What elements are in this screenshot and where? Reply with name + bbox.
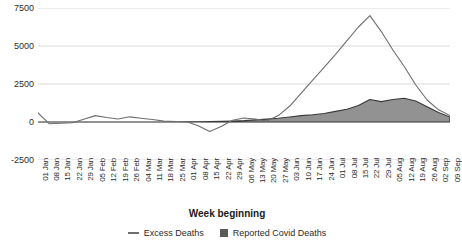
x-tick-label: 13 May	[259, 158, 267, 183]
x-axis-title: Week beginning	[0, 208, 454, 219]
legend-item-reported-covid-deaths: Reported Covid Deaths	[220, 228, 327, 238]
x-tick-label: 29 Apr	[236, 158, 244, 180]
line-swatch-icon	[128, 232, 139, 234]
x-tick-label: 20 May	[270, 158, 278, 183]
x-tick-label: 15 Jan	[64, 158, 72, 181]
x-tick-label: 05 Aug	[396, 158, 404, 182]
x-tick-label: 08 Jan	[53, 158, 61, 181]
x-tick-label: 25 Mar	[179, 158, 187, 182]
x-tick-label: 17 Jun	[316, 158, 324, 181]
x-tick-label: 19 Feb	[122, 158, 130, 182]
x-tick-label: 15 Jul	[362, 158, 370, 178]
x-tick-label: 24 Jun	[328, 158, 336, 181]
x-tick-label: 04 Mar	[145, 158, 153, 182]
x-tick-label: 26 Feb	[133, 158, 141, 182]
x-tick-label: 22 Jul	[373, 158, 381, 178]
x-tick-label: 10 Jun	[305, 158, 313, 181]
x-tick-label: 29 Jul	[385, 158, 393, 178]
x-tick-label: 22 Jan	[76, 158, 84, 181]
chart-svg	[38, 8, 450, 160]
x-tick-label: 01 Jan	[42, 158, 50, 181]
legend-label-excess-deaths: Excess Deaths	[144, 228, 204, 238]
x-tick-label: 27 May	[282, 158, 290, 183]
plot-area	[38, 8, 450, 160]
x-tick-label: 01 Jul	[339, 158, 347, 178]
x-tick-label: 06 May	[248, 158, 256, 183]
x-tick-label: 03 Jun	[293, 158, 301, 181]
x-tick-label: 29 Jan	[87, 158, 95, 181]
x-tick-label: 02 Sep	[442, 158, 450, 182]
legend-item-excess-deaths: Excess Deaths	[128, 228, 204, 238]
y-tick-label: 5000	[14, 42, 34, 51]
chart-legend: Excess Deaths Reported Covid Deaths	[0, 228, 454, 238]
x-tick-label: 08 Apr	[202, 158, 210, 180]
x-tick-label: 12 Feb	[110, 158, 118, 182]
x-axis: 01 Jan08 Jan15 Jan22 Jan29 Jan05 Feb12 F…	[38, 158, 450, 206]
y-tick-label: 0	[29, 118, 34, 127]
y-tick-label: 7500	[14, 4, 34, 13]
x-tick-label: 01 Apr	[190, 158, 198, 180]
x-tick-label: 26 Aug	[431, 158, 439, 182]
x-tick-label: 15 Apr	[213, 158, 221, 180]
x-tick-label: 08 Jul	[351, 158, 359, 178]
y-tick-label: 2500	[14, 80, 34, 89]
x-tick-label: 11 Mar	[156, 158, 164, 181]
y-axis: 7500500025000-2500	[0, 0, 34, 170]
x-tick-label: 09 Sep	[454, 158, 462, 182]
y-tick-label: -2500	[11, 156, 34, 165]
x-tick-label: 05 Feb	[99, 158, 107, 182]
x-tick-label: 19 Aug	[419, 158, 427, 182]
x-tick-label: 12 Aug	[408, 158, 416, 182]
box-swatch-icon	[220, 229, 228, 237]
x-tick-label: 22 Apr	[225, 158, 233, 180]
gridlines	[38, 8, 450, 160]
legend-label-reported-covid-deaths: Reported Covid Deaths	[233, 228, 327, 238]
x-tick-label: 18 Mar	[167, 158, 175, 182]
